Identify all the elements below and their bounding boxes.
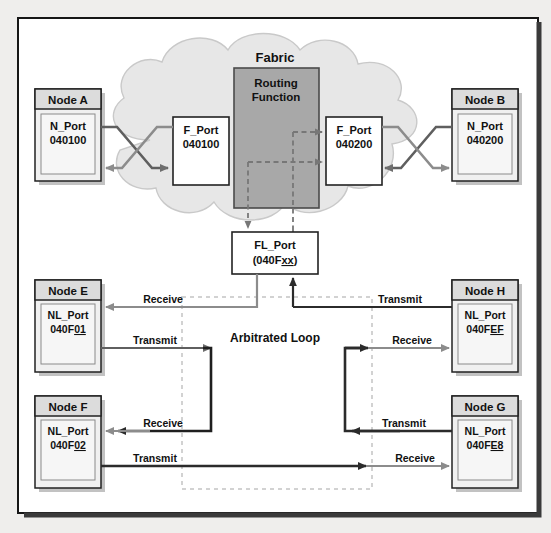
routing-function-label-line1: Routing xyxy=(254,77,297,89)
f-port-left-id: 040100 xyxy=(183,138,220,150)
f-port-right[interactable]: F_Port 040200 xyxy=(326,117,382,185)
fl-port-id: (040Fxx) xyxy=(253,254,298,266)
node-f-port-id-tail: 02 xyxy=(74,439,86,451)
node-b-port-type: N_Port xyxy=(467,120,503,132)
f-port-right-type: F_Port xyxy=(337,124,372,136)
diagram-page: Fabric Routing Function Node A N_Port 04… xyxy=(0,0,551,533)
f-port-left-type: F_Port xyxy=(184,124,219,136)
fl-port-type: FL_Port xyxy=(254,239,296,251)
node-f[interactable]: Node F NL_Port 040F02 xyxy=(35,396,105,492)
routing-function-rect xyxy=(234,68,319,208)
routing-function-label-line2: Function xyxy=(252,91,301,103)
node-f-port-id-head: 040F xyxy=(50,439,75,451)
node-h-port-id: 040FEF xyxy=(466,323,504,335)
node-g-port-type: NL_Port xyxy=(465,425,506,437)
label-node-e-receive: Receive xyxy=(143,293,183,305)
label-node-h-transmit: Transmit xyxy=(378,293,422,305)
node-g-port-id-head: 040F xyxy=(467,439,492,451)
node-a[interactable]: Node A N_Port 040100 xyxy=(35,89,105,185)
node-e[interactable]: Node E NL_Port 040F01 xyxy=(35,280,105,376)
node-a-port-id: 040100 xyxy=(50,134,87,146)
node-h-title: Node H xyxy=(465,285,505,297)
topology-svg: Fabric Routing Function Node A N_Port 04… xyxy=(0,0,551,533)
node-g-port-id-tail: E8 xyxy=(491,439,504,451)
node-b-title: Node B xyxy=(465,94,505,106)
fl-port-id-tail: xx xyxy=(281,254,294,266)
node-e-port-type: NL_Port xyxy=(48,309,89,321)
label-node-g-receive: Receive xyxy=(395,452,435,464)
node-h-port-id-head: 040F xyxy=(466,323,491,335)
label-node-g-transmit: Transmit xyxy=(382,417,426,429)
label-node-f-receive: Receive xyxy=(143,417,183,429)
node-e-port-id-head: 040F xyxy=(50,323,75,335)
fl-port[interactable]: FL_Port (040Fxx) xyxy=(232,232,318,274)
f-port-right-id: 040200 xyxy=(336,138,373,150)
node-f-port-type: NL_Port xyxy=(48,425,89,437)
node-b-port-id: 040200 xyxy=(467,134,504,146)
node-f-title: Node F xyxy=(49,401,88,413)
label-node-e-transmit: Transmit xyxy=(133,334,177,346)
node-h-port-id-tail: EF xyxy=(490,323,504,335)
node-e-port-id: 040F01 xyxy=(50,323,86,335)
node-f-port-id: 040F02 xyxy=(50,439,86,451)
node-e-title: Node E xyxy=(48,285,88,297)
node-g-title: Node G xyxy=(465,401,506,413)
node-b[interactable]: Node B N_Port 040200 xyxy=(452,89,522,185)
fl-port-id-close: ) xyxy=(294,254,298,266)
node-a-port-type: N_Port xyxy=(50,120,86,132)
fl-port-id-head: (040F xyxy=(253,254,282,266)
node-h[interactable]: Node H NL_Port 040FEF xyxy=(452,280,522,376)
fabric-label: Fabric xyxy=(255,50,294,65)
node-h-port-type: NL_Port xyxy=(465,309,506,321)
label-node-h-receive: Receive xyxy=(392,334,432,346)
label-node-f-transmit: Transmit xyxy=(133,452,177,464)
node-e-port-id-tail: 01 xyxy=(74,323,86,335)
node-g-port-id: 040FE8 xyxy=(467,439,504,451)
node-g[interactable]: Node G NL_Port 040FE8 xyxy=(452,396,522,492)
node-a-title: Node A xyxy=(48,94,88,106)
arbitrated-loop-label: Arbitrated Loop xyxy=(230,331,320,345)
f-port-left[interactable]: F_Port 040100 xyxy=(173,117,229,185)
routing-function-block: Routing Function xyxy=(234,68,319,208)
